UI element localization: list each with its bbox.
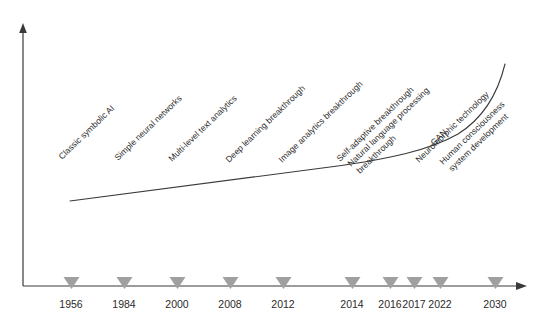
- year-label-group: 1956 1984 2000 2008 2012 2014 2016 2017 …: [59, 298, 507, 310]
- marker-triangle: [407, 277, 423, 289]
- marker-group: [64, 277, 504, 289]
- year-label: 2012: [271, 298, 295, 310]
- year-label: 1956: [59, 298, 83, 310]
- year-label: 2016: [378, 298, 402, 310]
- year-label: 2008: [218, 298, 242, 310]
- y-axis: [19, 23, 27, 286]
- marker-triangle: [223, 277, 239, 289]
- marker-triangle: [488, 277, 504, 289]
- marker-triangle: [276, 277, 292, 289]
- year-label: 2000: [165, 298, 189, 310]
- marker-triangle: [64, 277, 80, 289]
- y-axis-arrow-icon: [19, 23, 27, 33]
- x-axis: [23, 282, 527, 290]
- year-label: 2017: [402, 298, 426, 310]
- marker-triangle: [433, 277, 449, 289]
- ai-timeline-chart: 1956 1984 2000 2008 2012 2014 2016 2017 …: [0, 0, 550, 327]
- event-label-group: Classic symbolic AI Simple neural networ…: [56, 79, 510, 176]
- year-label: 2014: [340, 298, 364, 310]
- marker-triangle: [170, 277, 186, 289]
- year-label: 2022: [428, 298, 452, 310]
- year-label: 1984: [112, 298, 136, 310]
- marker-triangle: [383, 277, 399, 289]
- event-label-1956: Classic symbolic AI: [56, 103, 116, 161]
- marker-triangle: [345, 277, 361, 289]
- x-axis-arrow-icon: [516, 282, 527, 290]
- marker-triangle: [117, 277, 133, 289]
- chart-canvas: 1956 1984 2000 2008 2012 2014 2016 2017 …: [0, 0, 550, 327]
- year-label: 2030: [483, 298, 507, 310]
